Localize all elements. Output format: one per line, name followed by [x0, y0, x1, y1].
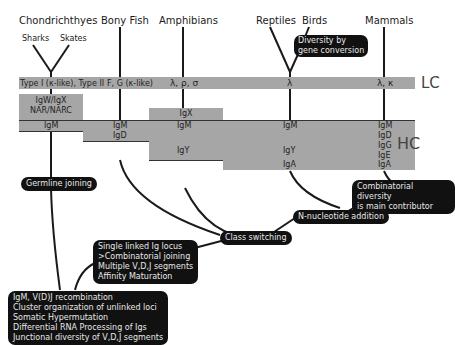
- hc-igm-chondrichthyes: IgM: [44, 121, 58, 130]
- annotation-n-nucleotide: N-nucleotide addition: [293, 210, 389, 224]
- hc-iga-mammals: IgA: [378, 160, 391, 169]
- hc-igm-band: [19, 120, 415, 131]
- taxon-chondrichthyes: Chondrichthyes: [19, 15, 97, 26]
- taxon-reptiles: Reptiles: [256, 15, 296, 26]
- hc-igm-bony-fish: IgM: [113, 121, 127, 130]
- annotation-root-features: IgM, V(D)J recombination Cluster organiz…: [8, 291, 168, 345]
- taxon-sharks: Sharks: [22, 34, 49, 43]
- hc-igg-mammals: IgG: [378, 141, 392, 150]
- hc-igd-bony-fish: IgD: [113, 131, 127, 140]
- lc-amphibians: λ, ρ, σ: [170, 78, 198, 88]
- annotation-single-linked-locus: Single linked Ig locus >Combinatorial jo…: [93, 240, 198, 284]
- hc-igm-amphibians: IgM: [177, 121, 191, 130]
- taxon-birds: Birds: [302, 15, 327, 26]
- taxon-bony-fish: Bony Fish: [101, 15, 149, 26]
- hc-igd-band: [83, 131, 415, 141]
- lc-mammals: λ, κ: [377, 78, 393, 88]
- hc-ige-mammals: IgE: [378, 151, 391, 160]
- hc-iga-reptiles: IgA: [283, 160, 296, 169]
- hc-amphibian-igx: IgX: [149, 109, 223, 118]
- annotation-combinatorial-diversity: Combinatorial diversity is main contribu…: [352, 180, 455, 214]
- lc-reptiles: λ: [287, 78, 292, 88]
- hc-igm-mammals: IgM: [378, 121, 392, 130]
- annotation-germline-joining: Germline joining: [21, 177, 97, 191]
- hc-igm-reptiles: IgM: [283, 121, 297, 130]
- lc-bony-fish: F, G (κ-like): [107, 79, 153, 88]
- immunoglobulin-evolution-diagram: Chondrichthyes Sharks Skates Bony Fish A…: [0, 0, 455, 345]
- divider: [19, 120, 415, 121]
- hc-chondrichthyes-extra: IgW/IgX NAR/NARC: [19, 96, 83, 116]
- annotation-class-switching: Class switching: [220, 231, 292, 245]
- taxon-skates: Skates: [60, 34, 87, 43]
- taxon-mammals: Mammals: [365, 15, 413, 26]
- hc-label: HC: [397, 134, 420, 153]
- lc-chondrichthyes: Type I (κ-like), Type II: [20, 79, 104, 88]
- lc-label: LC: [421, 74, 440, 92]
- hc-igy-amphibians: IgY: [177, 146, 189, 155]
- hc-igd-mammals: IgD: [378, 131, 392, 140]
- taxon-amphibians: Amphibians: [159, 15, 218, 26]
- annotation-gene-conversion: Diversity by gene conversion: [294, 35, 368, 57]
- hc-igy-reptiles: IgY: [283, 146, 295, 155]
